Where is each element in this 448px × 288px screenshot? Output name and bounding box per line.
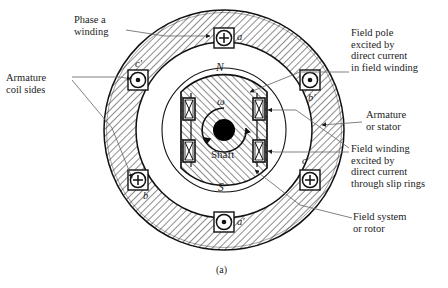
field-coil-right-lower [253,140,265,162]
shaft-label: Shaft [211,149,234,161]
callout-field-system-or-rotor: Field system or rotor [353,211,406,234]
omega-label: ω [217,96,225,108]
coil-side-label-a-prime: a′ [237,216,245,228]
coil-side-label-b: b [143,190,148,202]
coil-side-b-prime [300,70,320,90]
coil-side-label-c-prime: c′ [135,58,142,70]
coil-side-a-prime [214,212,234,232]
figure-root: N S ω Shaft a c′ b a′ c b′ Phase a windi… [0,0,448,288]
callout-field-pole-excited: Field pole excited by direct current in … [351,27,418,73]
south-pole-label: S [218,182,224,194]
coil-side-c-prime [128,70,148,90]
field-coil-left-lower [183,140,195,162]
north-pole-label: N [216,62,224,74]
coil-side-label-b-prime: b′ [308,92,316,104]
coil-side-a [214,28,234,48]
shaft-circle [213,119,235,141]
coil-side-b [128,170,148,190]
callout-phase-a-winding: Phase a winding [74,14,108,37]
callout-field-winding-excited: Field winding excited by direct current … [351,143,425,189]
callout-armature-coil-sides: Armature coil sides [6,72,46,95]
figure-caption: (a) [216,264,227,275]
coil-side-label-a: a [237,31,242,43]
coil-side-c [300,170,320,190]
coil-side-label-c: c [302,155,307,167]
field-coil-left-upper [183,98,195,120]
callout-armature-or-stator: Armature or stator [366,109,406,132]
field-coil-right-upper [253,98,265,120]
